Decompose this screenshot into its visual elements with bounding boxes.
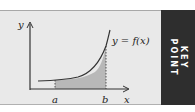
area-under-curve-diagram: y x a b y = f(x): [0, 0, 161, 112]
key-label: KEY: [178, 46, 188, 69]
lower-bound-label: a: [52, 94, 58, 105]
y-axis-label: y: [17, 19, 24, 30]
point-label: POINT: [168, 39, 178, 77]
shaded-region: [55, 46, 106, 89]
upper-bound-label: b: [102, 94, 108, 105]
key-point-panel: KEY POINT: [161, 10, 195, 105]
x-axis-label: x: [124, 94, 130, 105]
curve-label: y = f(x): [111, 35, 150, 46]
